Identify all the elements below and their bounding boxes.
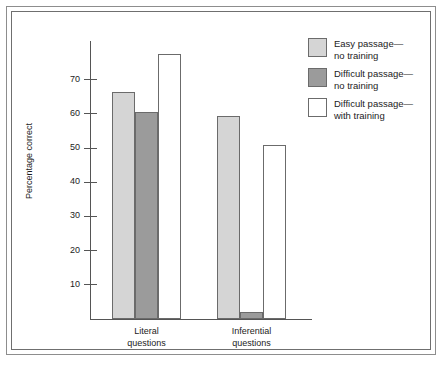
figure-caption-cropped [10, 362, 430, 374]
y-axis-line [90, 41, 91, 320]
x-category-label-line: questions [97, 338, 197, 350]
x-category-label-line: questions [202, 338, 302, 350]
y-tick-label: 30 [54, 211, 80, 220]
legend-swatch-2 [308, 68, 327, 87]
y-tick-label: 40 [54, 177, 80, 186]
x-category-label-line: Inferential [202, 326, 302, 338]
figure-frame-inner: 10203040506070 Percentage correct Litera… [11, 11, 431, 350]
x-axis-line [90, 319, 312, 320]
y-tick-mark [84, 79, 97, 80]
bar-2-2 [240, 312, 263, 319]
y-tick-mark [84, 284, 97, 285]
legend-item-1: Easy passage— no training [308, 38, 438, 61]
y-tick-mark [84, 148, 97, 149]
y-tick-label-text: 10 [58, 280, 80, 289]
y-tick-mark [84, 250, 97, 251]
y-tick-label: 70 [54, 75, 80, 84]
y-tick-label-text: 40 [58, 177, 80, 186]
legend-label-1: Easy passage— no training [334, 38, 403, 61]
y-tick-label: 20 [54, 246, 80, 255]
y-tick-mark [84, 113, 97, 114]
legend-item-3: Difficult passage— with training [308, 98, 438, 121]
y-tick-label-text: 70 [58, 75, 80, 84]
y-tick-label-text: 60 [58, 109, 80, 118]
legend-item-2: Difficult passage— no training [308, 68, 438, 91]
bar-1-2 [135, 112, 158, 319]
chart-legend: Easy passage— no trainingDifficult passa… [308, 38, 438, 128]
bar-2-3 [263, 145, 286, 319]
legend-label-2: Difficult passage— no training [334, 68, 413, 91]
bar-2-1 [217, 116, 240, 319]
y-tick-label: 50 [54, 143, 80, 152]
legend-swatch-3 [308, 98, 327, 117]
y-tick-label: 60 [54, 109, 80, 118]
x-category-label-line: Literal [97, 326, 197, 338]
figure-frame: 10203040506070 Percentage correct Litera… [6, 6, 436, 355]
bar-1-1 [112, 92, 135, 319]
x-category-label-2: Inferentialquestions [202, 326, 302, 349]
legend-swatch-1 [308, 38, 327, 57]
y-tick-mark [84, 182, 97, 183]
y-tick-label-text: 20 [58, 246, 80, 255]
y-tick-label-text: 30 [58, 211, 80, 220]
y-tick-label-text: 50 [58, 143, 80, 152]
x-category-label-1: Literalquestions [97, 326, 197, 349]
bar-1-3 [158, 54, 181, 319]
y-axis-title: Percentage correct [24, 101, 34, 221]
y-tick-label: 10 [54, 280, 80, 289]
y-tick-mark [84, 216, 97, 217]
legend-label-3: Difficult passage— with training [334, 98, 413, 121]
